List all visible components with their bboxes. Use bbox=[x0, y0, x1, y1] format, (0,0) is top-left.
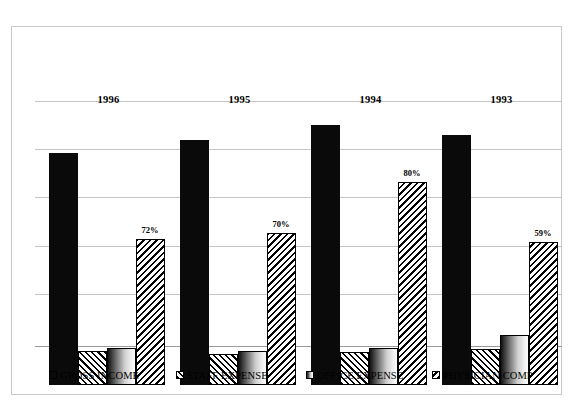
bar-group-1994: 1994 80% bbox=[305, 104, 436, 385]
bar-group-1993: 1993 59% bbox=[436, 104, 567, 385]
solid-black-swatch-icon bbox=[49, 371, 57, 379]
bar-1996-gross-income[interactable] bbox=[49, 153, 78, 385]
bar-1993-physician-comp[interactable] bbox=[529, 242, 558, 385]
legend-item-gross-income[interactable]: GROSS INCOME bbox=[49, 367, 139, 383]
bar-group-1996: 1996 72% bbox=[43, 104, 174, 385]
chart-legend: GROSS INCOME STAFF EXPENSE OFFICE EXPENS… bbox=[35, 367, 562, 387]
gradient-swatch-icon bbox=[306, 371, 314, 379]
bar-1993-gross-income[interactable] bbox=[442, 135, 471, 385]
forward-hatch-swatch-icon bbox=[432, 371, 440, 379]
legend-item-physician-comp[interactable]: PHYSICIAN COMP bbox=[432, 367, 533, 383]
bars-1995: 70% bbox=[174, 104, 305, 385]
bar-1994-physician-comp[interactable] bbox=[398, 182, 427, 385]
back-hatch-swatch-icon bbox=[176, 371, 184, 379]
bar-1996-physician-comp[interactable] bbox=[136, 239, 165, 385]
value-label-1993: 59% bbox=[535, 228, 552, 238]
value-label-1995: 70% bbox=[273, 219, 290, 229]
legend-label-staff-expense: STAFF EXPENSE bbox=[187, 370, 268, 381]
chart-screenshot: 1996 72% 1995 70% bbox=[0, 0, 579, 411]
legend-label-office-expense: OFFICE EXPENSE bbox=[317, 370, 403, 381]
legend-label-gross-income: GROSS INCOME bbox=[60, 370, 139, 381]
bars-1996: 72% bbox=[43, 104, 174, 385]
chart-frame: 1996 72% 1995 70% bbox=[11, 26, 562, 395]
value-label-1996: 72% bbox=[142, 225, 159, 235]
bar-group-1995: 1995 70% bbox=[174, 104, 305, 385]
bar-1995-physician-comp[interactable] bbox=[267, 233, 296, 385]
legend-label-physician-comp: PHYSICIAN COMP bbox=[443, 370, 533, 381]
bars-1994: 80% bbox=[305, 104, 436, 385]
value-label-1994: 80% bbox=[404, 168, 421, 178]
bars-1993: 59% bbox=[436, 104, 567, 385]
bar-1994-gross-income[interactable] bbox=[311, 125, 340, 385]
plot-area: 1996 72% 1995 70% bbox=[35, 65, 562, 385]
legend-item-staff-expense[interactable]: STAFF EXPENSE bbox=[176, 367, 268, 383]
bar-1995-gross-income[interactable] bbox=[180, 140, 209, 385]
legend-item-office-expense[interactable]: OFFICE EXPENSE bbox=[306, 367, 403, 383]
